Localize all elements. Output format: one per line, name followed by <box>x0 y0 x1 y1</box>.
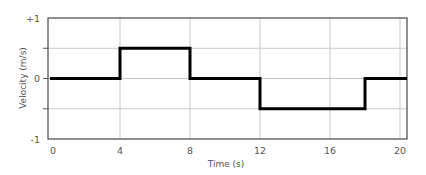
y-tick-label: -1 <box>31 134 40 145</box>
velocity-time-chart: +10-1048121620Time (s)Velocity (m/s) <box>0 0 426 175</box>
x-tick-label: 16 <box>324 145 336 156</box>
x-tick-label: 0 <box>50 145 56 156</box>
x-tick-label: 12 <box>254 145 266 156</box>
plot-area: +10-1048121620Time (s)Velocity (m/s) <box>0 0 426 175</box>
y-axis-label: Velocity (m/s) <box>18 47 28 109</box>
y-tick-label: 0 <box>34 73 40 84</box>
x-tick-label: 8 <box>187 145 193 156</box>
x-tick-label: 4 <box>117 145 123 156</box>
y-tick-label: +1 <box>26 13 40 24</box>
x-axis-label: Time (s) <box>207 159 245 169</box>
x-tick-label: 20 <box>394 145 406 156</box>
